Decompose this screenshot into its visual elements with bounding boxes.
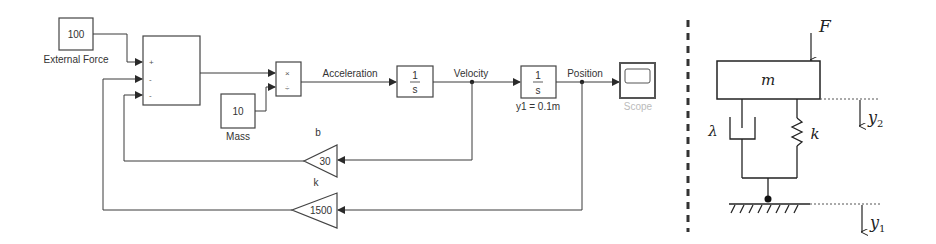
sum-port-plus: + <box>149 58 154 67</box>
integrator-2-numerator: 1 <box>535 70 541 81</box>
simulink-model: 100 External Force + - - × ÷ 10 Mass <box>43 18 655 228</box>
product-port-multiply: × <box>285 69 290 78</box>
position-label: Position <box>567 68 603 79</box>
mass-value: 10 <box>232 106 244 117</box>
scope-block[interactable] <box>620 63 655 98</box>
spring-icon <box>792 99 802 178</box>
gain-b-block[interactable]: 30 <box>304 145 337 177</box>
connector-bar <box>742 178 797 197</box>
damper-icon <box>730 99 755 178</box>
force-label: F <box>818 16 832 36</box>
product-block[interactable]: × ÷ <box>276 62 301 96</box>
damper-label: λ <box>707 122 718 140</box>
scope-label: Scope <box>624 101 653 112</box>
sum-block[interactable]: + - - <box>143 36 200 105</box>
integrator-2-denominator: s <box>536 85 541 96</box>
sum-port-minus-1: - <box>149 75 152 84</box>
wire-mass-to-product <box>255 87 275 111</box>
scope-screen-icon <box>625 69 650 83</box>
integrator-2-block[interactable]: 1 s <box>521 66 556 98</box>
gain-k-label: k <box>314 177 320 188</box>
gain-k-value: 1500 <box>310 205 333 216</box>
gain-k-block[interactable]: 1500 <box>292 193 337 228</box>
velocity-label: Velocity <box>454 68 488 79</box>
y1-label: y1 <box>869 213 885 234</box>
gain-b-label: b <box>315 127 321 138</box>
external-force-block[interactable]: 100 <box>59 18 93 50</box>
mechanical-schematic: F m λ k <box>707 16 885 234</box>
ground-icon <box>729 204 810 213</box>
y2-label: y2 <box>867 108 883 129</box>
integrator-2-initial-condition: y1 = 0.1m <box>516 101 560 112</box>
mass-label: Mass <box>226 131 250 142</box>
acceleration-label: Acceleration <box>322 68 377 79</box>
sum-port-minus-2: - <box>149 91 152 100</box>
spring-label: k <box>810 125 819 143</box>
integrator-1-denominator: s <box>413 84 418 95</box>
mass-symbol: m <box>761 71 775 89</box>
integrator-1-numerator: 1 <box>412 70 418 81</box>
external-force-label: External Force <box>43 54 108 65</box>
contact-point <box>765 196 772 203</box>
product-port-divide: ÷ <box>285 84 290 93</box>
mass-block[interactable]: 10 <box>221 94 255 128</box>
gain-b-value: 30 <box>319 156 331 167</box>
diagram-canvas: 100 External Force + - - × ÷ 10 Mass <box>0 0 936 244</box>
integrator-1-block[interactable]: 1 s <box>397 66 433 97</box>
external-force-value: 100 <box>68 29 85 40</box>
